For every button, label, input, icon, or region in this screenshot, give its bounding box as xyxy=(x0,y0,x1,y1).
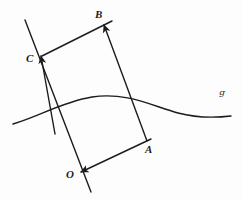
point-label-b: B xyxy=(95,9,102,20)
geometry-figure: B C A O ᵍ xyxy=(0,0,243,200)
point-label-a: A xyxy=(145,144,152,155)
curve-label-g: ᵍ xyxy=(219,88,225,102)
vector-O-to-C xyxy=(41,56,55,134)
segment-A-to-O xyxy=(81,139,151,172)
point-label-o: O xyxy=(66,169,74,180)
point-label-c: C xyxy=(26,53,33,64)
diagram-strokes xyxy=(13,20,231,192)
line-O-to-C-extended xyxy=(25,20,91,192)
vector-A-to-B xyxy=(104,25,147,141)
segment-C-to-B xyxy=(42,21,112,56)
figure-canvas xyxy=(0,0,243,200)
curve-G xyxy=(13,96,231,124)
